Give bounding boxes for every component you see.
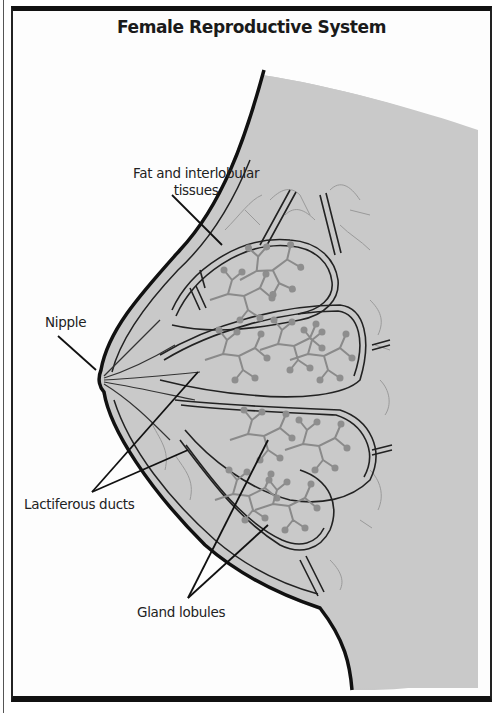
breast-anatomy-illustration bbox=[0, 0, 496, 713]
label-fat-and-interlobular-tissues: Fat and interlobular tissues bbox=[133, 165, 259, 199]
label-lactiferous-ducts: Lactiferous ducts bbox=[24, 496, 135, 513]
label-nipple: Nipple bbox=[45, 314, 86, 331]
label-gland-lobules: Gland lobules bbox=[137, 604, 225, 621]
label-fat-line1: Fat and interlobular bbox=[133, 165, 259, 182]
label-fat-line2: tissues bbox=[133, 182, 259, 199]
